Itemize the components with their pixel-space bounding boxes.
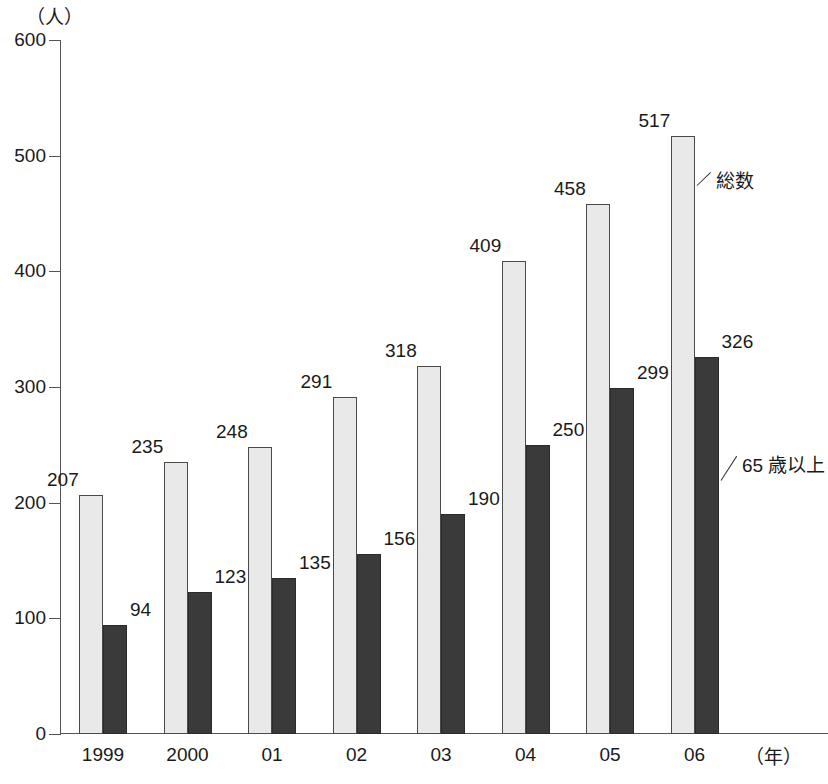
elderly-bar-04	[526, 445, 550, 734]
y-axis-tick-label: 300	[0, 376, 46, 398]
y-axis-tick-label: 0	[0, 723, 46, 745]
y-axis-tick	[49, 156, 61, 157]
total-bar-1999	[79, 495, 103, 734]
x-axis-tick-label-2000: 2000	[166, 744, 208, 766]
y-axis-tick-label: 100	[0, 607, 46, 629]
elderly-bar-06	[695, 357, 719, 734]
elderly-value-04: 250	[553, 419, 585, 441]
y-axis-tick-label: 500	[0, 145, 46, 167]
total-bar-02	[333, 397, 357, 734]
x-axis-tick-label-01: 01	[261, 744, 282, 766]
x-axis-tick-label-05: 05	[599, 744, 620, 766]
elderly-bar-01	[272, 578, 296, 734]
elderly-bar-02	[357, 554, 381, 734]
total-value-05: 458	[554, 178, 586, 200]
x-axis-tick-label-02: 02	[346, 744, 367, 766]
total-bar-04	[502, 261, 526, 734]
total-value-01: 248	[216, 421, 248, 443]
y-axis-tick	[49, 40, 61, 41]
total-bar-2000	[164, 462, 188, 734]
total-bar-06	[671, 136, 695, 734]
total-value-04: 409	[470, 235, 502, 257]
y-axis-tick	[49, 734, 61, 735]
elderly-bar-03	[441, 514, 465, 734]
x-axis-unit-label: （年）	[745, 742, 802, 769]
elderly-bar-1999	[103, 625, 127, 734]
total-value-1999: 207	[47, 469, 79, 491]
total-value-06: 517	[639, 110, 671, 132]
bar-chart: （人） （年） 0100200300400500600 207942351232…	[0, 0, 828, 784]
total-value-03: 318	[385, 340, 417, 362]
total-bar-03	[417, 366, 441, 734]
y-axis-unit-label: （人）	[26, 2, 83, 29]
total-value-02: 291	[301, 371, 333, 393]
total-bar-01	[248, 447, 272, 734]
y-axis-tick	[49, 387, 61, 388]
y-axis-tick	[49, 271, 61, 272]
elderly-bar-05	[610, 388, 634, 734]
elderly-value-01: 135	[299, 552, 331, 574]
elderly-value-05: 299	[637, 362, 669, 384]
plot-area: 2079423512324813529115631819040925045829…	[60, 40, 828, 734]
y-axis-tick-label: 400	[0, 260, 46, 282]
x-axis-tick-label-06: 06	[684, 744, 705, 766]
total-bar-05	[586, 204, 610, 734]
x-axis-tick-label-04: 04	[515, 744, 536, 766]
annotation-elderly-label: 65 歳以上	[742, 450, 825, 477]
y-axis-tick-label: 600	[0, 29, 46, 51]
elderly-value-06: 326	[722, 331, 754, 353]
elderly-value-02: 156	[384, 528, 416, 550]
total-value-2000: 235	[132, 436, 164, 458]
y-axis-tick-label: 200	[0, 492, 46, 514]
x-axis-tick-label-03: 03	[430, 744, 451, 766]
y-axis-tick	[49, 618, 61, 619]
elderly-value-03: 190	[468, 488, 500, 510]
elderly-bar-2000	[188, 592, 212, 734]
y-axis-tick	[49, 503, 61, 504]
elderly-value-2000: 123	[215, 566, 247, 588]
x-axis-tick-label-1999: 1999	[82, 744, 124, 766]
annotation-total-label: 総数	[716, 166, 754, 193]
elderly-value-1999: 94	[130, 599, 151, 621]
